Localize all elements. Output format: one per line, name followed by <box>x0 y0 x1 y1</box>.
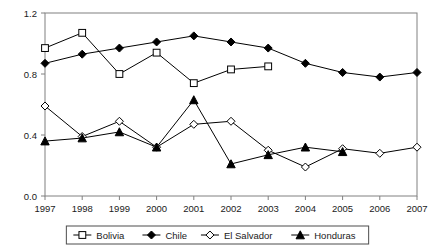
data-point-honduras-2002 <box>227 160 235 168</box>
data-point-bolivia-1999 <box>116 71 123 78</box>
marker-open-diamond <box>413 143 421 151</box>
marker-filled-triangle <box>301 143 309 151</box>
marker-filled-diamond <box>413 68 421 76</box>
data-point-bolivia-1998 <box>79 29 86 36</box>
y-axis-tick-label: 0.8 <box>24 69 37 80</box>
line-chart: 0.00.40.81.21997199819992000200120022003… <box>0 0 439 251</box>
legend-item-bolivia[interactable]: Bolivia <box>73 230 125 241</box>
x-axis-tick-label: 2004 <box>295 203 316 214</box>
x-axis-tick-label: 2006 <box>369 203 390 214</box>
marker-open-square <box>42 45 49 52</box>
data-point-honduras-2001 <box>190 96 198 104</box>
data-point-bolivia-2003 <box>265 63 272 70</box>
data-point-honduras-2004 <box>301 143 309 151</box>
marker-open-square <box>265 63 272 70</box>
series-line-el-salvador <box>45 106 417 167</box>
y-axis-tick-label: 1.2 <box>24 8 37 19</box>
marker-filled-diamond <box>115 44 123 52</box>
marker-filled-diamond <box>153 38 161 46</box>
legend-marker-open-square <box>79 232 86 239</box>
marker-filled-triangle <box>190 96 198 104</box>
chart-figure: 0.00.40.81.21997199819992000200120022003… <box>0 0 439 251</box>
data-point-el-salvador-2004 <box>301 163 309 171</box>
data-point-el-salvador-2007 <box>413 143 421 151</box>
marker-filled-diamond <box>376 73 384 81</box>
marker-filled-diamond <box>78 50 86 58</box>
marker-open-square <box>116 71 123 78</box>
marker-open-diamond <box>301 163 309 171</box>
data-point-chile-2007 <box>413 68 421 76</box>
y-axis-tick-label: 0.4 <box>24 130 37 141</box>
marker-open-square <box>228 66 235 73</box>
data-point-chile-2002 <box>227 38 235 46</box>
data-point-chile-2004 <box>301 59 309 67</box>
data-point-honduras-1999 <box>115 128 123 136</box>
marker-filled-triangle <box>115 128 123 136</box>
x-axis-tick-label: 2002 <box>220 203 241 214</box>
data-point-bolivia-2002 <box>228 66 235 73</box>
x-axis-tick-label: 1999 <box>109 203 130 214</box>
marker-filled-diamond <box>190 32 198 40</box>
legend-label: El Salvador <box>224 230 273 241</box>
data-point-chile-2003 <box>264 44 272 52</box>
marker-filled-diamond <box>41 59 49 67</box>
x-axis-tick-label: 2007 <box>406 203 427 214</box>
data-point-chile-1999 <box>115 44 123 52</box>
data-point-bolivia-2000 <box>153 49 160 56</box>
legend-label: Honduras <box>314 230 355 241</box>
series-line-honduras <box>45 100 343 164</box>
marker-open-square <box>79 232 86 239</box>
data-point-el-salvador-1999 <box>115 117 123 125</box>
legend-item-honduras[interactable]: Honduras <box>291 230 355 241</box>
marker-filled-diamond <box>301 59 309 67</box>
data-point-chile-2005 <box>339 68 347 76</box>
marker-filled-diamond <box>227 38 235 46</box>
marker-open-diamond <box>376 149 384 157</box>
marker-filled-diamond <box>339 68 347 76</box>
data-point-chile-1998 <box>78 50 86 58</box>
marker-open-diamond <box>115 117 123 125</box>
data-point-chile-1997 <box>41 59 49 67</box>
x-axis-tick-label: 2000 <box>146 203 167 214</box>
x-axis-tick-label: 1997 <box>34 203 55 214</box>
data-point-bolivia-2001 <box>190 80 197 87</box>
x-axis-tick-label: 1998 <box>72 203 93 214</box>
data-point-chile-2001 <box>190 32 198 40</box>
marker-open-square <box>79 29 86 36</box>
data-point-chile-2006 <box>376 73 384 81</box>
marker-filled-triangle <box>227 160 235 168</box>
x-axis-tick-label: 2005 <box>332 203 353 214</box>
data-point-el-salvador-2001 <box>190 120 198 128</box>
legend-label: Bolivia <box>96 230 125 241</box>
chart-legend: BoliviaChileEl SalvadorHonduras <box>66 226 368 244</box>
marker-filled-diamond <box>264 44 272 52</box>
legend-label: Chile <box>165 230 187 241</box>
y-axis-tick-label: 0.0 <box>24 191 37 202</box>
data-point-el-salvador-2006 <box>376 149 384 157</box>
marker-open-diamond <box>190 120 198 128</box>
marker-open-square <box>153 49 160 56</box>
marker-open-square <box>190 80 197 87</box>
data-point-chile-2000 <box>153 38 161 46</box>
x-axis-tick-label: 2001 <box>183 203 204 214</box>
x-axis-tick-label: 2003 <box>258 203 279 214</box>
data-point-bolivia-1997 <box>42 45 49 52</box>
